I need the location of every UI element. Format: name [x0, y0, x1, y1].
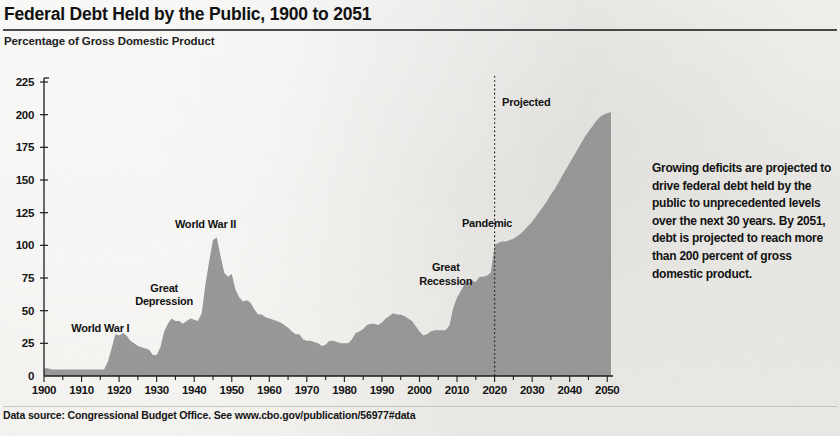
title-divider — [3, 29, 837, 31]
y-axis-tick-label: 225 — [0, 76, 34, 88]
y-axis-tick-label: 100 — [0, 239, 34, 251]
page-title: Federal Debt Held by the Public, 1900 to… — [4, 4, 371, 25]
annotation-world-war-ii: World War II — [135, 218, 275, 232]
y-axis-tick-label: 0 — [0, 370, 34, 382]
y-axis-tick-label: 175 — [0, 141, 34, 153]
data-source-note: Data source: Congressional Budget Office… — [3, 409, 415, 421]
annotation-pandemic: Pandemic — [417, 217, 557, 231]
area-series-texture — [44, 112, 611, 376]
x-axis-tick-label: 2050 — [585, 384, 629, 396]
y-axis-tick-label: 25 — [0, 337, 34, 349]
annotation-great-recession: Great Recession — [410, 261, 482, 288]
y-axis-tick-label: 50 — [0, 305, 34, 317]
y-axis-tick-label: 75 — [0, 272, 34, 284]
chart: 0255075100125150175200225 19001910192019… — [0, 60, 645, 405]
chart-plot — [0, 60, 645, 405]
footer-divider — [3, 406, 837, 407]
annotation-world-war-i: World War I — [30, 322, 170, 336]
figure-page: Federal Debt Held by the Public, 1900 to… — [0, 0, 840, 436]
annotation-great-depression: Great Depression — [128, 282, 200, 309]
callout-text: Growing deficits are projected to drive … — [652, 160, 840, 283]
y-axis-tick-label: 125 — [0, 207, 34, 219]
chart-subtitle: Percentage of Gross Domestic Product — [4, 35, 215, 47]
y-axis-tick-label: 150 — [0, 174, 34, 186]
annotation-projected: Projected — [502, 96, 550, 110]
y-axis-tick-label: 200 — [0, 109, 34, 121]
